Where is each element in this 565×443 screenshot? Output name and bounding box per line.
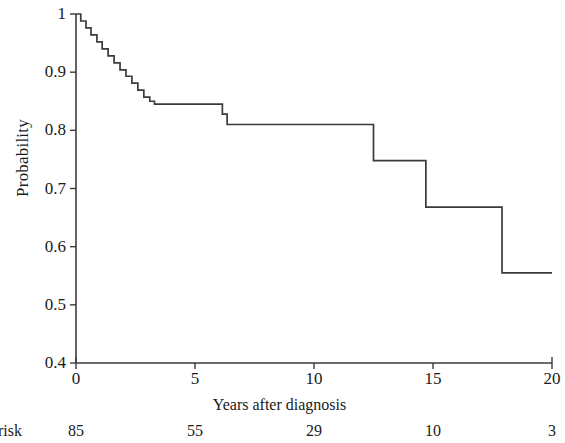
at-risk-count: 85 xyxy=(56,422,96,440)
at-risk-count: 29 xyxy=(294,422,334,440)
at-risk-caption: risk xyxy=(0,422,22,440)
at-risk-count: 10 xyxy=(413,422,453,440)
at-risk-count: 55 xyxy=(175,422,215,440)
at-risk-count: 3 xyxy=(532,422,565,440)
